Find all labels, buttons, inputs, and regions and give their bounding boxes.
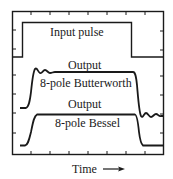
input-pulse-label: Input pulse: [50, 26, 104, 38]
butterworth-name-label: 8-pole Butterworth: [40, 77, 132, 89]
bessel-name-label: 8-pole Bessel: [55, 117, 120, 129]
butterworth-output-label: Output: [68, 59, 101, 71]
x-axis-label: Time: [72, 163, 97, 175]
arrow-right-icon: [103, 167, 125, 172]
bessel-output-label: Output: [68, 98, 101, 110]
